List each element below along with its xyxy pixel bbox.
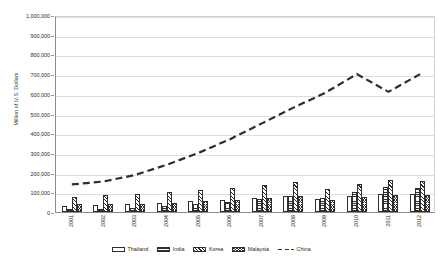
x-tick-label-2010: 2010 xyxy=(353,215,359,227)
y-tick-label: 800,000 xyxy=(31,52,51,58)
x-tick-label-2002: 2002 xyxy=(100,215,106,227)
plot-area xyxy=(55,16,435,213)
y-tick-mark xyxy=(51,115,54,116)
legend-label: India xyxy=(173,246,185,252)
x-axis-tick-labels: 2001200220032004200520062007200820092010… xyxy=(55,215,435,241)
x-tick-label-2003: 2003 xyxy=(131,215,137,227)
x-tick-label-2011: 2011 xyxy=(385,215,391,227)
bar-line-combo-chart: Million of U.S. Dollars 0100,000200,0003… xyxy=(0,0,445,266)
x-tick-label-2009: 2009 xyxy=(321,215,327,227)
y-tick-label: 400,000 xyxy=(31,131,51,137)
legend-label: Malaysia xyxy=(248,246,269,252)
chart-legend: ThailandIndiaKoreaMalaysiaChina xyxy=(112,246,311,252)
y-tick-mark xyxy=(51,134,54,135)
y-tick-mark xyxy=(51,154,54,155)
y-tick-mark xyxy=(51,193,54,194)
y-axis-tick-labels: 0100,000200,000300,000400,000500,000600,… xyxy=(0,16,54,213)
y-tick-label: 500,000 xyxy=(31,112,51,118)
y-tick-label: 200,000 xyxy=(31,171,51,177)
y-tick-label: 0 xyxy=(47,210,50,216)
y-tick-label: 700,000 xyxy=(31,72,51,78)
swatch-crosshatch-icon xyxy=(232,247,245,252)
x-tick-label-2006: 2006 xyxy=(226,215,232,227)
swatch-solid-white-icon xyxy=(112,247,125,252)
china-line-path xyxy=(72,74,420,184)
legend-label: Korea xyxy=(209,246,223,252)
y-tick-label: 300,000 xyxy=(31,151,51,157)
legend-label: Thailand xyxy=(128,246,149,252)
y-tick-label: 600,000 xyxy=(31,92,51,98)
swatch-diagonal-stripes-icon xyxy=(193,247,206,252)
y-tick-mark xyxy=(51,75,54,76)
y-tick-mark xyxy=(51,213,54,214)
y-tick-label: 100,000 xyxy=(31,190,51,196)
y-tick-label: 900,000 xyxy=(31,33,51,39)
x-tick-label-2012: 2012 xyxy=(416,215,422,227)
y-tick-mark xyxy=(51,36,54,37)
y-tick-mark xyxy=(51,16,54,17)
legend-label: China xyxy=(297,246,311,252)
y-tick-mark xyxy=(51,174,54,175)
y-tick-label: 1,000,000 xyxy=(26,13,50,19)
swatch-horizontal-stripes-icon xyxy=(157,247,170,252)
legend-item-korea[interactable]: Korea xyxy=(193,246,223,252)
x-tick-label-2005: 2005 xyxy=(195,215,201,227)
legend-item-malaysia[interactable]: Malaysia xyxy=(232,246,269,252)
x-tick-label-2004: 2004 xyxy=(163,215,169,227)
legend-item-thailand[interactable]: Thailand xyxy=(112,246,148,252)
y-tick-mark xyxy=(51,95,54,96)
china-line-series xyxy=(56,17,436,214)
y-tick-mark xyxy=(51,55,54,56)
legend-item-china[interactable]: China xyxy=(278,246,311,252)
x-tick-label-2008: 2008 xyxy=(290,215,296,227)
x-tick-label-2001: 2001 xyxy=(68,215,74,227)
legend-item-india[interactable]: India xyxy=(157,246,184,252)
swatch-dashed-line-icon xyxy=(278,248,294,251)
x-tick-label-2007: 2007 xyxy=(258,215,264,227)
